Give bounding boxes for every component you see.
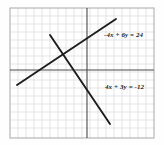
graph-figure: -4x + 6y = 24 4x + 3y = -12: [0, 0, 164, 145]
equation-label-line-2: 4x + 3y = -12: [105, 84, 144, 91]
coordinate-plane: [0, 0, 164, 145]
equation-label-line-1: -4x + 6y = 24: [104, 32, 143, 39]
